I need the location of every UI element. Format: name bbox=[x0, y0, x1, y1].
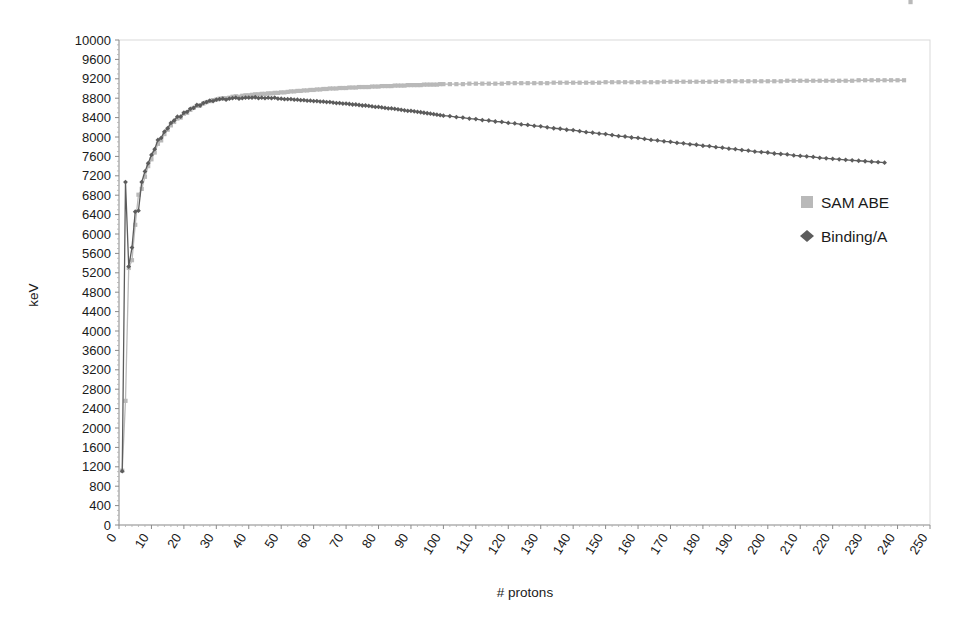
data-point-marker bbox=[448, 82, 452, 86]
data-point-marker bbox=[649, 80, 653, 84]
legend-label: Binding/A bbox=[821, 228, 888, 245]
data-point-marker bbox=[818, 79, 822, 83]
y-tick-label: 8400 bbox=[82, 110, 111, 125]
data-point-marker bbox=[740, 79, 744, 83]
data-point-marker bbox=[662, 80, 666, 84]
y-tick-label: 2400 bbox=[82, 401, 111, 416]
data-point-marker bbox=[798, 79, 802, 83]
y-tick-label: 6800 bbox=[82, 188, 111, 203]
data-point-marker bbox=[857, 78, 861, 82]
data-point-marker bbox=[584, 81, 588, 85]
y-tick-label: 6400 bbox=[82, 207, 111, 222]
data-point-marker bbox=[467, 82, 471, 86]
y-tick-label: 9200 bbox=[82, 71, 111, 86]
data-point-marker bbox=[539, 81, 543, 85]
y-tick-label: 7200 bbox=[82, 168, 111, 183]
data-point-marker bbox=[779, 79, 783, 83]
y-tick-label: 6000 bbox=[82, 227, 111, 242]
y-tick-label: 2000 bbox=[82, 421, 111, 436]
data-point-marker bbox=[571, 81, 575, 85]
data-point-marker bbox=[895, 78, 899, 82]
y-tick-label: 8000 bbox=[82, 130, 111, 145]
y-tick-label: 5600 bbox=[82, 246, 111, 261]
data-point-marker bbox=[461, 82, 465, 86]
y-tick-label: 4000 bbox=[82, 324, 111, 339]
data-point-marker bbox=[519, 81, 523, 85]
data-point-marker bbox=[655, 80, 659, 84]
data-point-marker bbox=[824, 79, 828, 83]
data-point-marker bbox=[565, 81, 569, 85]
data-point-marker bbox=[870, 78, 874, 82]
y-tick-label: 1600 bbox=[82, 440, 111, 455]
y-tick-label: 5200 bbox=[82, 265, 111, 280]
data-point-marker bbox=[597, 81, 601, 85]
data-point-marker bbox=[506, 81, 510, 85]
y-tick-label: 9600 bbox=[82, 52, 111, 67]
data-point-marker bbox=[629, 80, 633, 84]
y-tick-label: 400 bbox=[89, 498, 111, 513]
data-point-marker bbox=[681, 80, 685, 84]
nuclear-binding-energy-chart: 0400800120016002000240028003200360040004… bbox=[0, 0, 965, 626]
data-point-marker bbox=[480, 82, 484, 86]
y-tick-label: 800 bbox=[89, 479, 111, 494]
data-point-marker bbox=[707, 80, 711, 84]
y-tick-label: 7600 bbox=[82, 149, 111, 164]
data-point-marker bbox=[772, 79, 776, 83]
y-tick-label: 3600 bbox=[82, 343, 111, 358]
data-point-marker bbox=[441, 82, 445, 86]
data-point-marker bbox=[753, 79, 757, 83]
data-point-marker bbox=[454, 82, 458, 86]
data-point-marker bbox=[616, 80, 620, 84]
data-point-marker bbox=[759, 79, 763, 83]
data-point-marker bbox=[591, 81, 595, 85]
data-point-marker bbox=[727, 79, 731, 83]
data-point-marker bbox=[688, 80, 692, 84]
y-tick-label: 1200 bbox=[82, 459, 111, 474]
y-tick-label: 10000 bbox=[75, 33, 111, 48]
data-point-marker bbox=[610, 80, 614, 84]
y-tick-label: 3200 bbox=[82, 362, 111, 377]
data-point-marker bbox=[493, 82, 497, 86]
data-point-marker bbox=[863, 78, 867, 82]
data-point-marker bbox=[552, 81, 556, 85]
y-tick-label: 4800 bbox=[82, 285, 111, 300]
data-point-marker bbox=[902, 78, 906, 82]
data-point-marker bbox=[876, 78, 880, 82]
y-axis-title: keV bbox=[26, 283, 41, 306]
data-point-marker bbox=[623, 80, 627, 84]
data-point-marker bbox=[532, 81, 536, 85]
data-point-marker bbox=[487, 82, 491, 86]
data-point-marker bbox=[720, 79, 724, 83]
data-point-marker bbox=[811, 79, 815, 83]
data-point-marker bbox=[844, 79, 848, 83]
data-point-marker bbox=[831, 79, 835, 83]
data-point-marker bbox=[500, 82, 504, 86]
data-point-marker bbox=[882, 78, 886, 82]
x-axis-title: # protons bbox=[497, 585, 554, 600]
data-point-marker bbox=[837, 79, 841, 83]
data-point-marker bbox=[545, 81, 549, 85]
data-point-marker bbox=[636, 80, 640, 84]
data-point-marker bbox=[668, 80, 672, 84]
data-point-marker bbox=[474, 82, 478, 86]
data-point-marker bbox=[701, 80, 705, 84]
data-point-marker bbox=[805, 79, 809, 83]
data-point-marker bbox=[850, 79, 854, 83]
y-tick-label: 8800 bbox=[82, 91, 111, 106]
data-point-marker bbox=[889, 78, 893, 82]
data-point-marker bbox=[714, 80, 718, 84]
data-point-marker bbox=[733, 79, 737, 83]
data-point-marker bbox=[526, 81, 530, 85]
data-point-marker bbox=[642, 80, 646, 84]
data-point-marker bbox=[123, 399, 127, 403]
data-point-marker bbox=[694, 80, 698, 84]
y-tick-label: 0 bbox=[104, 518, 111, 533]
legend-label: SAM ABE bbox=[821, 194, 889, 211]
data-point-marker bbox=[558, 81, 562, 85]
data-point-marker bbox=[604, 80, 608, 84]
data-point-marker bbox=[513, 81, 517, 85]
legend-marker-square bbox=[801, 196, 813, 208]
data-point-marker bbox=[908, 0, 912, 4]
y-tick-label: 2800 bbox=[82, 382, 111, 397]
data-point-marker bbox=[746, 79, 750, 83]
